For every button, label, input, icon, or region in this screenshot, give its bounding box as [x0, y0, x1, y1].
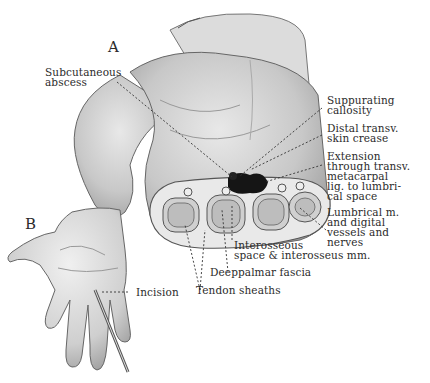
- panel-label-a: A: [108, 38, 119, 56]
- label-interosseous-space: Interosseous space & interosseus mm.: [234, 240, 370, 260]
- label-tendon-sheaths: Tendon sheaths: [196, 285, 281, 295]
- label-extension-lumbrical-space: Extension through transv. metacarpal lig…: [327, 151, 410, 201]
- label-subcutaneous-abscess: Subcutaneous abscess: [45, 67, 121, 87]
- panel-label-b: B: [25, 215, 36, 233]
- label-incision: Incision: [136, 287, 179, 297]
- label-suppurating-callosity: Suppurating callosity: [327, 95, 395, 115]
- label-distal-transverse-crease: Distal transv. skin crease: [327, 123, 398, 143]
- label-deep-palmar-fascia: Deeppalmar fascia: [210, 267, 311, 277]
- anatomical-illustration: A B Subcutaneous abscess Suppurating cal…: [0, 0, 430, 383]
